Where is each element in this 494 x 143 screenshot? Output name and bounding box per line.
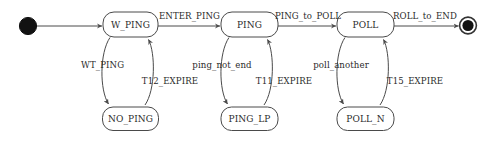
state-label: PING: [237, 20, 262, 30]
initial-state-node[interactable]: [19, 17, 36, 34]
transition-arrow: [337, 38, 345, 105]
transition-t11-expire[interactable]: T11_EXPIRE: [256, 40, 312, 106]
transition-arrow: [221, 38, 229, 105]
state-label: PING_LP: [229, 114, 271, 125]
state-label: W_PING: [111, 20, 150, 31]
transition-arrow: [145, 40, 153, 106]
transition-ping-to-poll[interactable]: PING_to_POLL: [275, 11, 341, 26]
final-state-node[interactable]: [460, 17, 477, 34]
transition-label: ENTER_PING: [159, 11, 220, 22]
transition-roll-to-end[interactable]: ROLL_to_END: [393, 11, 458, 26]
transition-arrow: [380, 40, 388, 106]
transition-ping-not-end[interactable]: ping_not_end: [192, 38, 252, 105]
transition-t15-expire[interactable]: T15_EXPIRE: [380, 40, 443, 106]
transition-label: T12_EXPIRE: [142, 76, 198, 87]
state-node-w-ping[interactable]: W_PING: [103, 12, 158, 37]
state-node-poll-n[interactable]: POLL_N: [337, 107, 394, 131]
state-node-ping-lp[interactable]: PING_LP: [221, 107, 278, 131]
state-label: POLL: [353, 20, 379, 30]
transition-label: poll_another: [313, 60, 369, 71]
transition-t12-expire[interactable]: T12_EXPIRE: [142, 40, 198, 106]
state-node-ping[interactable]: PING: [221, 12, 278, 37]
transition-label: ping_not_end: [192, 60, 252, 71]
transition-label: PING_to_POLL: [275, 11, 341, 22]
state-diagram-canvas: W_PING PING POLL NO_PING PING_LP POLL_N: [0, 0, 494, 143]
state-node-no-ping[interactable]: NO_PING: [103, 107, 159, 131]
transition-label: ROLL_to_END: [393, 11, 457, 22]
transition-label: T15_EXPIRE: [387, 76, 443, 87]
state-diagram-svg: W_PING PING POLL NO_PING PING_LP POLL_N: [0, 0, 494, 143]
transition-arrow: [264, 40, 272, 106]
transition-wt-ping[interactable]: WT_PING: [81, 38, 124, 105]
state-node-poll[interactable]: POLL: [337, 12, 394, 37]
state-label: NO_PING: [108, 114, 153, 125]
transition-enter-ping[interactable]: ENTER_PING: [158, 11, 220, 26]
transition-label: T11_EXPIRE: [256, 76, 312, 87]
transition-poll-another[interactable]: poll_another: [313, 38, 369, 105]
state-label: POLL_N: [346, 114, 384, 125]
transition-arrow: [102, 38, 110, 105]
transition-label: WT_PING: [81, 60, 124, 71]
